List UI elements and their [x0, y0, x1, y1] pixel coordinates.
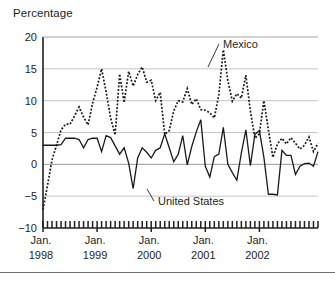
annotation-label-united-states: United States [158, 195, 225, 207]
chart-figure: Percentage 20151050−5−10 Jan.1998Jan.199… [0, 0, 335, 286]
x-tick-label: Jan. [193, 234, 214, 246]
x-tick-label: 2001 [191, 249, 215, 261]
x-tick-label: 1999 [83, 249, 107, 261]
series-line-united-states [43, 120, 318, 195]
x-tick-label: 2000 [137, 249, 161, 261]
x-tick-label: Jan. [139, 234, 160, 246]
line-chart-plot: 20151050−5−10 Jan.1998Jan.1999Jan.2000Ja… [0, 0, 335, 272]
data-series [43, 50, 318, 210]
annotation-label-mexico: Mexico [223, 38, 258, 50]
y-tick-label: 15 [25, 63, 37, 75]
x-tick-label: Jan. [31, 234, 52, 246]
y-axis-tick-labels: 20151050−5−10 [18, 31, 37, 234]
y-tick-label: −5 [24, 190, 37, 202]
gridlines [43, 37, 318, 196]
y-tick-label: 20 [25, 31, 37, 43]
x-tick-label: Jan. [247, 234, 268, 246]
figure-bottom-rule [0, 272, 335, 273]
x-axis-tick-marks [43, 221, 318, 228]
x-tick-label: 1998 [29, 249, 53, 261]
y-tick-label: 10 [25, 95, 37, 107]
annotation-leader-line [147, 189, 154, 201]
y-tick-label: 0 [31, 158, 37, 170]
y-tick-label: −10 [18, 222, 37, 234]
x-axis-tick-labels: Jan.1998Jan.1999Jan.2000Jan.2001Jan.2002 [29, 228, 270, 261]
x-tick-label: Jan. [85, 234, 106, 246]
x-tick-label: 2002 [245, 249, 269, 261]
annotation-leader-line [208, 44, 219, 67]
y-tick-label: 5 [31, 127, 37, 139]
series-line-mexico [43, 50, 318, 210]
